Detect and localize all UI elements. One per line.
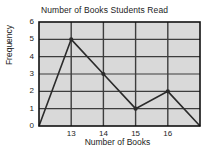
data-point-marker bbox=[101, 72, 105, 76]
data-point-marker bbox=[69, 37, 73, 41]
chart-figure: Number of Books Students Read Frequency … bbox=[0, 0, 209, 155]
data-point-marker bbox=[166, 89, 170, 93]
line-chart-plot bbox=[0, 0, 209, 155]
data-point-marker bbox=[134, 107, 138, 111]
